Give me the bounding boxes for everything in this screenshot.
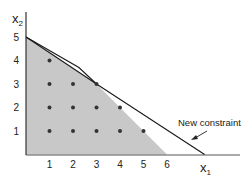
x-tick-labels: 123456 <box>47 159 171 170</box>
y-tick-label: 1 <box>13 126 19 137</box>
y-tick-label: 5 <box>13 32 19 43</box>
integer-point <box>95 82 99 86</box>
y-tick-label: 2 <box>13 102 19 113</box>
feasible-region-diagram: 123456 12345 x2 x1 New constraint <box>0 0 250 178</box>
integer-point <box>71 82 75 86</box>
integer-point <box>95 129 99 133</box>
integer-point <box>71 129 75 133</box>
y-tick-label: 3 <box>13 79 19 90</box>
integer-point <box>142 129 146 133</box>
integer-point <box>118 129 122 133</box>
feasible-region <box>26 37 167 155</box>
new-constraint-label: New constraint <box>178 117 241 128</box>
x-axis-label: x1 <box>200 160 212 177</box>
y-axis-label: x2 <box>12 11 24 28</box>
integer-point <box>48 106 52 110</box>
integer-point <box>118 106 122 110</box>
integer-point <box>48 129 52 133</box>
x-tick-label: 3 <box>94 159 100 170</box>
x-tick-label: 1 <box>47 159 53 170</box>
integer-point <box>71 106 75 110</box>
y-tick-label: 4 <box>13 55 19 66</box>
integer-point <box>48 82 52 86</box>
x-tick-label: 2 <box>70 159 76 170</box>
x-tick-label: 4 <box>117 159 123 170</box>
integer-point <box>48 59 52 63</box>
annotation-arrow-icon <box>191 131 207 140</box>
integer-point <box>95 106 99 110</box>
x-tick-label: 5 <box>141 159 147 170</box>
y-tick-labels: 12345 <box>13 32 19 137</box>
x-tick-label: 6 <box>164 159 170 170</box>
